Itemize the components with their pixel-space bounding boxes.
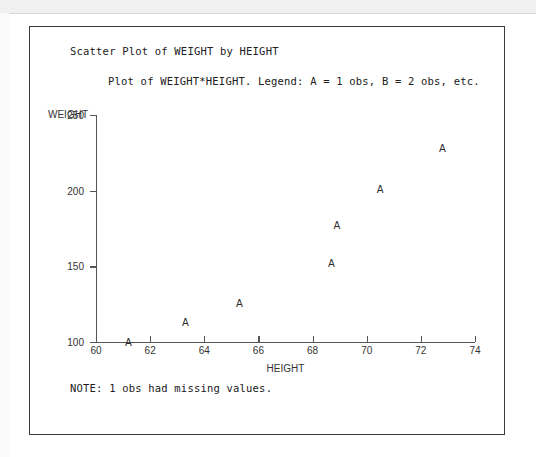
scan-edge-top xyxy=(0,0,536,14)
data-point-marker: A xyxy=(236,297,243,308)
x-tick-mark xyxy=(313,336,314,342)
x-tick-mark xyxy=(421,336,422,342)
x-tick-label: 64 xyxy=(199,345,210,356)
x-tick-label: 74 xyxy=(469,345,480,356)
data-point-marker: A xyxy=(328,258,335,269)
x-tick-mark xyxy=(475,336,476,342)
y-tick-mark xyxy=(90,342,96,343)
scan-edge-left xyxy=(0,13,9,457)
data-point-marker: A xyxy=(377,184,384,195)
y-tick-mark xyxy=(90,191,96,192)
x-tick-label: 62 xyxy=(145,345,156,356)
footer-note: NOTE: 1 obs had missing values. xyxy=(70,382,272,394)
x-tick-label: 70 xyxy=(361,345,372,356)
y-tick-label: 200 xyxy=(30,185,84,196)
x-tick-label: 72 xyxy=(415,345,426,356)
x-tick-mark xyxy=(150,336,151,342)
data-point-marker: A xyxy=(182,317,189,328)
y-axis-line xyxy=(96,115,97,343)
data-point-marker: A xyxy=(334,220,341,231)
x-tick-mark xyxy=(258,336,259,342)
x-tick-label: 66 xyxy=(253,345,264,356)
y-tick-label: 250 xyxy=(30,110,84,121)
y-tick-label: 150 xyxy=(30,261,84,272)
data-point-marker: A xyxy=(125,337,132,348)
x-axis-line xyxy=(96,342,475,343)
y-tick-label: 100 xyxy=(30,337,84,348)
x-axis-title: HEIGHT xyxy=(96,363,475,374)
x-tick-mark xyxy=(204,336,205,342)
x-tick-mark xyxy=(367,336,368,342)
scanned-page: Scatter Plot of WEIGHT by HEIGHT Plot of… xyxy=(0,0,536,457)
x-tick-label: 60 xyxy=(90,345,101,356)
x-tick-label: 68 xyxy=(307,345,318,356)
data-point-marker: A xyxy=(439,143,446,154)
scatter-plot: WEIGHT 100150200250 6062646668707274 AAA… xyxy=(30,27,506,436)
y-tick-mark xyxy=(90,266,96,267)
y-tick-mark xyxy=(90,115,96,116)
x-tick-mark xyxy=(96,336,97,342)
sas-output-frame: Scatter Plot of WEIGHT by HEIGHT Plot of… xyxy=(29,26,505,435)
